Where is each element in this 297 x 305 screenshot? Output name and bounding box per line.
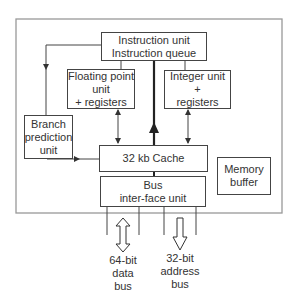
arrowhead-down-icon <box>43 64 49 70</box>
integer-unit-block: Integer unit + registers <box>164 70 231 109</box>
arrowhead-right-icon <box>74 156 80 162</box>
address-bus-line-3: bus <box>157 278 203 291</box>
memory-buffer-block: Memory buffer <box>217 157 271 195</box>
cache-block: 32 kb Cache <box>99 145 208 172</box>
branch-line-1: Branch <box>31 118 66 131</box>
down-arrow-icon <box>173 218 187 250</box>
data-bus-line-2: data <box>103 267 143 280</box>
instruction-queue-label: Instruction queue <box>112 47 196 60</box>
floating-point-block: Floating point unit + registers <box>67 69 135 109</box>
data-bus-label: 64-bit data bus <box>103 254 143 293</box>
memory-buffer-line-2: buffer <box>230 176 258 189</box>
data-bus-line-1: 64-bit <box>103 254 143 267</box>
instruction-unit-label: Instruction unit <box>118 34 190 47</box>
branch-line-2: prediction <box>25 131 73 144</box>
floating-point-line-3: + registers <box>75 96 127 109</box>
data-bus-line-3: bus <box>103 280 143 293</box>
integer-unit-line-1: Integer unit <box>170 70 225 83</box>
address-bus-line-2: address <box>157 265 203 278</box>
bus-interface-block: Bus inter-face unit <box>100 176 206 207</box>
address-bus-label: 32-bit address bus <box>157 252 203 291</box>
double-arrow-icon <box>116 218 130 252</box>
memory-buffer-line-1: Memory <box>224 163 264 176</box>
address-bus-line-1: 32-bit <box>157 252 203 265</box>
floating-point-line-1: Floating point <box>68 70 134 83</box>
cache-label: 32 kb Cache <box>123 152 185 165</box>
instruction-unit-block: Instruction unit Instruction queue <box>101 32 207 61</box>
bus-interface-line-2: inter-face unit <box>120 192 187 205</box>
arrowhead-up-icon <box>149 122 159 133</box>
branch-line-3: unit <box>40 144 58 157</box>
integer-unit-line-2: + <box>194 83 200 96</box>
floating-point-line-2: unit <box>92 83 110 96</box>
branch-prediction-block: Branch prediction unit <box>24 115 73 159</box>
bus-interface-line-1: Bus <box>144 179 163 192</box>
integer-unit-line-3: registers <box>176 96 218 109</box>
